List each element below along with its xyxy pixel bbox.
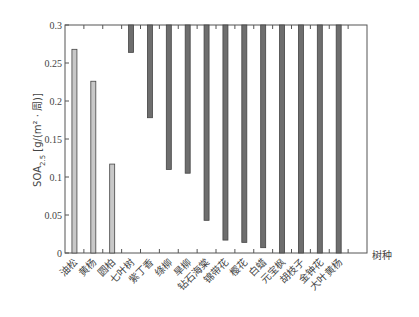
bar <box>91 81 96 253</box>
bar <box>147 25 152 118</box>
bar <box>129 25 134 52</box>
y-tick-label: 0.3 <box>50 20 63 31</box>
bar <box>204 25 209 220</box>
x-tick-label: 绦柳 <box>152 256 175 279</box>
bars <box>72 25 341 253</box>
x-tick-label: 油松 <box>57 256 80 279</box>
bar <box>166 25 171 169</box>
bar <box>336 25 341 253</box>
bar <box>72 49 77 253</box>
bar <box>261 25 266 248</box>
bar <box>223 25 228 240</box>
y-tick-label: 0.25 <box>45 58 63 69</box>
y-tick-label: 0.15 <box>45 134 63 145</box>
bar-chart: 00.050.10.150.20.250.3 油松黄杨圆柏七叶树紫丁香绦柳旱柳钻… <box>0 0 419 317</box>
x-tick-label: 樱花 <box>227 256 250 279</box>
y-tick-label: 0.1 <box>50 172 63 183</box>
y-tick-label: 0.05 <box>45 210 63 221</box>
x-tick-label: 黄杨 <box>76 256 99 279</box>
bar <box>317 25 322 253</box>
bar <box>280 25 285 253</box>
y-tick-label: 0.2 <box>50 96 63 107</box>
x-axis-label: 树种 <box>372 249 392 261</box>
bar <box>242 25 247 242</box>
y-tick-label: 0 <box>57 248 62 259</box>
bar <box>298 25 303 253</box>
bar <box>110 164 115 253</box>
bar <box>185 25 190 173</box>
